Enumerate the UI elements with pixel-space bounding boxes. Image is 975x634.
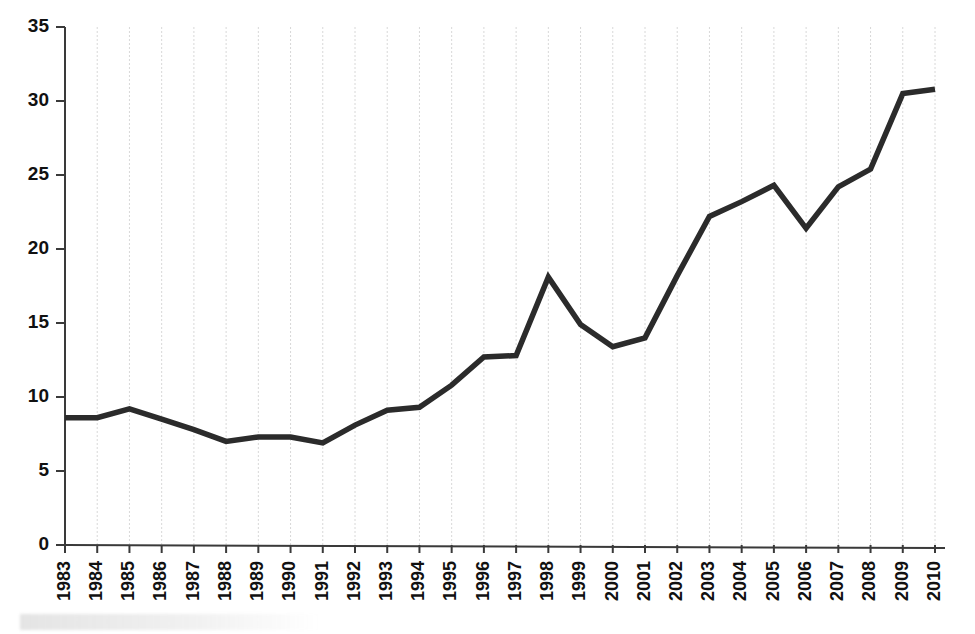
y-tick-label: 30 (28, 89, 49, 110)
x-tick-label: 2006 (795, 561, 815, 601)
y-tick-label: 5 (38, 459, 49, 480)
axes (65, 27, 945, 548)
x-tick-label: 1984 (86, 561, 106, 601)
gridlines (97, 27, 935, 545)
y-tick-label: 20 (28, 237, 49, 258)
y-tick-label: 35 (28, 15, 50, 36)
x-tick-label: 1995 (440, 561, 460, 601)
x-tick-label: 1994 (408, 561, 428, 601)
x-tick-label: 1988 (215, 561, 235, 601)
x-tick-label: 2004 (730, 561, 750, 601)
chart-canvas: 05101520253035 1983198419851986198719881… (0, 0, 975, 634)
x-tick-label: 2009 (892, 561, 912, 601)
y-tick-label: 25 (28, 163, 50, 184)
y-tick-label: 15 (28, 311, 50, 332)
x-tick-label: 1990 (279, 561, 299, 601)
x-tick-label: 1993 (376, 561, 396, 601)
x-axis-ticks: 1983198419851986198719881989199019911992… (54, 545, 944, 601)
caption-artifact (20, 614, 320, 630)
x-tick-label: 2007 (827, 561, 847, 601)
x-tick-label: 2008 (859, 561, 879, 601)
y-axis-ticks: 05101520253035 (28, 15, 65, 554)
x-tick-label: 1997 (505, 561, 525, 601)
y-tick-label: 0 (38, 533, 49, 554)
x-tick-label: 1992 (344, 561, 364, 601)
x-tick-label: 1987 (183, 561, 203, 601)
x-tick-label: 1991 (312, 561, 332, 601)
line-chart: 05101520253035 1983198419851986198719881… (0, 0, 975, 634)
y-tick-label: 10 (28, 385, 49, 406)
x-tick-label: 1998 (537, 561, 557, 601)
x-tick-label: 2001 (634, 561, 654, 601)
x-tick-label: 1986 (150, 561, 170, 601)
x-tick-label: 1999 (569, 561, 589, 601)
x-tick-label: 2010 (924, 561, 944, 601)
x-tick-label: 2003 (698, 561, 718, 601)
x-tick-label: 2002 (666, 561, 686, 601)
data-series-line (65, 89, 935, 443)
x-tick-label: 2005 (763, 561, 783, 601)
x-tick-label: 1989 (247, 561, 267, 601)
x-tick-label: 1985 (118, 561, 138, 601)
x-tick-label: 1983 (54, 561, 74, 601)
x-tick-label: 2000 (602, 561, 622, 601)
x-axis-line (65, 545, 945, 548)
x-tick-label: 1996 (473, 561, 493, 601)
